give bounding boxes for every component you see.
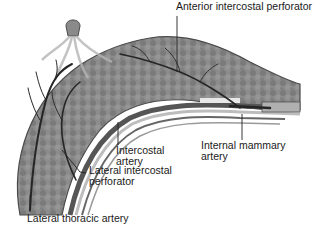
- label-internal-mammary-artery: Internal mammary artery: [201, 140, 286, 162]
- label-anterior-intercostal-perforator: Anterior intercostal perforator: [176, 1, 312, 12]
- label-lateral-thoracic-artery: Lateral thoracic artery: [27, 213, 129, 224]
- breast-tissue: [18, 37, 301, 215]
- nipple: [66, 20, 80, 36]
- label-lateral-intercostal-perforator: Lateral intercostal perforator: [89, 165, 172, 187]
- breast-anatomy-illustration: [0, 0, 315, 231]
- rib-cartilage-highlight: [200, 98, 240, 103]
